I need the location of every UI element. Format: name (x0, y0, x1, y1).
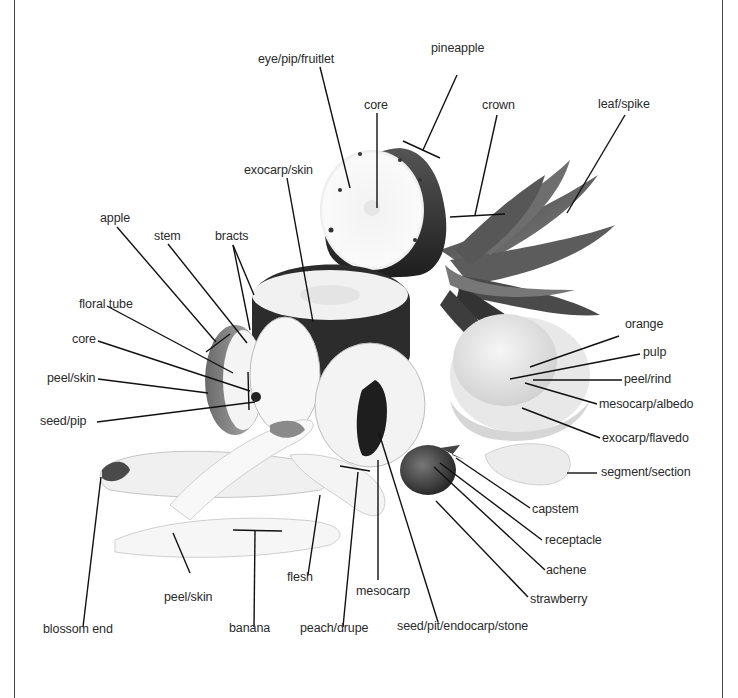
label-pulp: pulp (643, 345, 666, 359)
peach (315, 343, 425, 467)
label-segment-section: segment/section (601, 465, 691, 479)
label-peel-skin-apple: peel/skin (47, 371, 95, 385)
label-peel-skin-banana: peel/skin (164, 590, 212, 604)
label-achene: achene (546, 563, 586, 577)
orange-segment (485, 444, 570, 485)
label-leaf-spike: leaf/spike (598, 97, 650, 111)
label-capstem: capstem (532, 502, 579, 516)
label-orange: orange (625, 317, 663, 331)
label-core-apple: core (72, 332, 96, 346)
label-receptacle: receptacle (545, 533, 602, 547)
label-exocarp-skin: exocarp/skin (244, 163, 313, 177)
label-flesh: flesh (287, 570, 313, 584)
label-floral-tube: floral tube (79, 297, 133, 311)
label-crown: crown (482, 98, 515, 112)
label-peel-rind: peel/rind (624, 372, 671, 386)
pineapple (320, 148, 446, 277)
label-blossom-end: blossom end (43, 622, 113, 636)
apple-seed (251, 392, 261, 402)
label-peach-drupe: peach/drupe (300, 621, 368, 635)
label-strawberry: strawberry (530, 592, 587, 606)
label-pineapple: pineapple (431, 41, 484, 55)
label-mesocarp-albedo: mesocarp/albedo (599, 397, 693, 411)
label-banana: banana (229, 621, 270, 635)
label-seed-pip: seed/pip (40, 414, 86, 428)
label-exocarp-flavedo: exocarp/flavedo (602, 431, 689, 445)
label-seed-pit-endocarp-stone: seed/pit/endocarp/stone (397, 619, 528, 633)
apple (205, 317, 320, 435)
label-apple: apple (100, 211, 130, 225)
label-bracts: bracts (215, 229, 248, 243)
label-mesocarp: mesocarp (356, 584, 410, 598)
label-stem: stem (154, 229, 181, 243)
label-core-pineapple: core (364, 98, 388, 112)
label-eye-pip-fruitlet: eye/pip/fruitlet (258, 52, 334, 66)
